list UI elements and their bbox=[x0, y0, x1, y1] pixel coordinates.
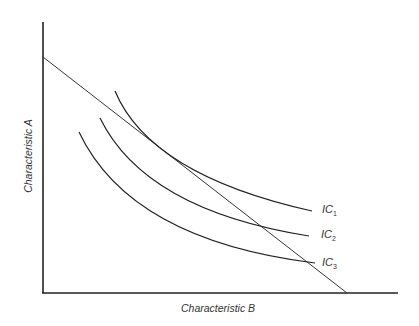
ic1-label: IC1 bbox=[322, 203, 337, 217]
budget-line bbox=[43, 57, 347, 293]
diagram-canvas bbox=[0, 0, 419, 326]
y-axis-label: Characteristic A bbox=[22, 106, 34, 206]
x-axis-label: Characteristic B bbox=[181, 302, 255, 314]
indifference-curve-2 bbox=[100, 118, 309, 236]
indifference-curve-1 bbox=[115, 91, 312, 211]
ic3-label: IC3 bbox=[322, 256, 337, 270]
indifference-curve-3 bbox=[79, 132, 315, 263]
ic2-label: IC2 bbox=[321, 228, 336, 242]
